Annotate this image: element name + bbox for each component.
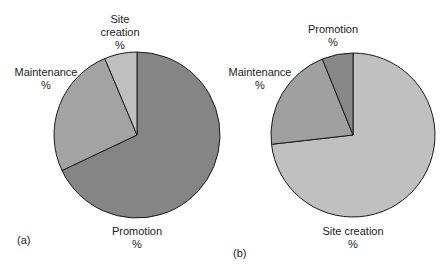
label-b-maint-text: Maintenance bbox=[226, 66, 294, 79]
panel-label-a: (a) bbox=[17, 234, 30, 246]
label-a-maintenance: Maintenance % bbox=[12, 66, 80, 92]
label-b-site-creation: Site creation % bbox=[310, 225, 396, 251]
label-a-maint-text: Maintenance bbox=[12, 66, 80, 79]
label-a-site-pct: % bbox=[95, 39, 145, 52]
panel-label-b: (b) bbox=[233, 247, 246, 259]
label-b-promo-pct: % bbox=[300, 36, 366, 49]
label-a-promotion: Promotion % bbox=[105, 225, 169, 251]
label-b-site-pct: % bbox=[310, 238, 396, 251]
label-b-maint-pct: % bbox=[226, 79, 294, 92]
label-a-promo-pct: % bbox=[105, 238, 169, 251]
pie-chart-b bbox=[271, 53, 435, 217]
label-a-maint-pct: % bbox=[12, 79, 80, 92]
label-a-site-line1: Site bbox=[95, 13, 145, 26]
label-a-promo-text: Promotion bbox=[105, 225, 169, 238]
label-b-maintenance: Maintenance % bbox=[226, 66, 294, 92]
label-a-site-line2: creation bbox=[95, 26, 145, 39]
label-b-promo-text: Promotion bbox=[300, 23, 366, 36]
label-b-site-text: Site creation bbox=[310, 225, 396, 238]
label-a-site-creation: Site creation % bbox=[95, 13, 145, 52]
label-b-promotion: Promotion % bbox=[300, 23, 366, 49]
